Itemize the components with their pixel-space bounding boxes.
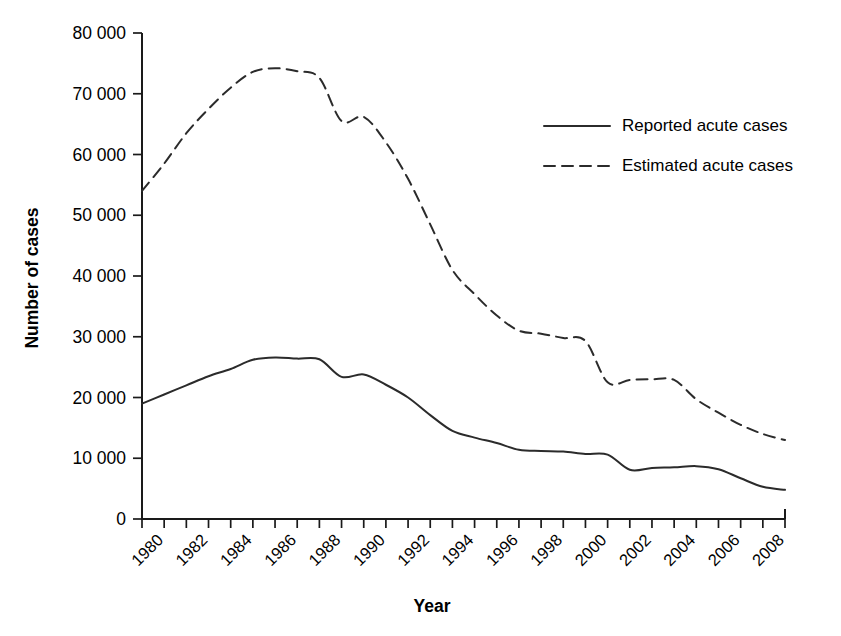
x-tick-label: 2008: [748, 530, 787, 569]
x-tick-label: 1986: [261, 530, 300, 569]
axis-lines: [142, 33, 785, 519]
x-tick-label: 2006: [704, 530, 743, 569]
x-tick-label: 2002: [615, 530, 654, 569]
x-tick-label: 1992: [394, 530, 433, 569]
x-tick-label: 1988: [305, 530, 344, 569]
x-tick-label: 1996: [482, 530, 521, 569]
y-tick-label: 20 000: [72, 388, 126, 408]
x-tick-label: 1980: [128, 530, 167, 569]
y-tick-label: 60 000: [72, 145, 126, 165]
axis-ticks: [133, 33, 785, 528]
x-tick-label: 1982: [172, 530, 211, 569]
y-tick-label: 80 000: [72, 23, 126, 43]
y-tick-label: 70 000: [72, 84, 126, 104]
x-tick-label: 2004: [660, 530, 699, 569]
x-tick-label: 1994: [438, 530, 477, 569]
series-line-1: [142, 357, 785, 489]
x-tick-label: 1984: [216, 530, 255, 569]
x-axis-tick-labels: 1980198219841986198819901992199419961998…: [128, 530, 788, 569]
x-tick-label: 2000: [571, 530, 610, 569]
line-chart: 010 00020 00030 00040 00050 00060 00070 …: [0, 0, 841, 636]
y-axis-title: Number of cases: [22, 207, 42, 348]
y-tick-label: 40 000: [72, 266, 126, 286]
y-tick-label: 50 000: [72, 205, 126, 225]
y-tick-label: 0: [116, 509, 126, 529]
y-axis-tick-labels: 010 00020 00030 00040 00050 00060 00070 …: [72, 23, 126, 529]
y-tick-label: 30 000: [72, 327, 126, 347]
y-tick-label: 10 000: [72, 448, 126, 468]
legend-label-1: Reported acute cases: [622, 116, 787, 135]
x-tick-label: 1998: [527, 530, 566, 569]
axes: [142, 33, 785, 519]
legend-label-2: Estimated acute cases: [622, 156, 793, 175]
x-axis-title: Year: [414, 596, 451, 616]
chart-figure: 010 00020 00030 00040 00050 00060 00070 …: [0, 0, 841, 636]
x-tick-label: 1990: [349, 530, 388, 569]
chart-legend: Reported acute casesEstimated acute case…: [544, 116, 793, 175]
